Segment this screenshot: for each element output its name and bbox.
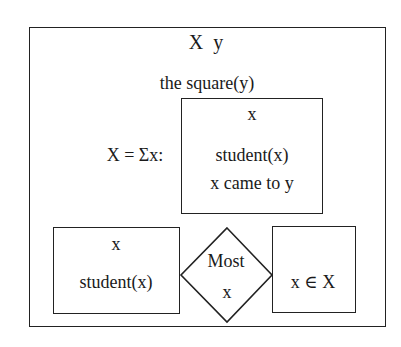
scope-box	[272, 226, 356, 313]
quantifier-variable: x	[223, 283, 232, 301]
scope-condition: x ∈ X	[291, 273, 335, 291]
quantifier-determiner: Most	[207, 252, 244, 270]
drs-diagram: X y the square(y) X = Σx: x student(x) x…	[0, 0, 401, 347]
diamond-shape	[181, 228, 272, 322]
